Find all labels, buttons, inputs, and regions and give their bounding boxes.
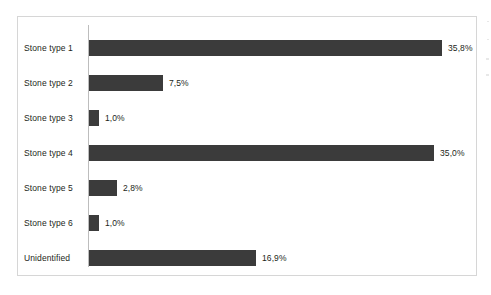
bar-value-label: 1,0% <box>105 110 125 126</box>
bar-row: Unidentified 16,9% <box>18 241 476 275</box>
bar-track: 35,8% <box>89 31 476 65</box>
bar-track: 7,5% <box>89 66 476 100</box>
bar-row: Stone type 2 7,5% <box>18 66 476 100</box>
bar-track: 2,8% <box>89 171 476 205</box>
bar-track: 16,9% <box>89 241 476 275</box>
scan-artifact <box>486 74 489 76</box>
bar <box>89 145 434 161</box>
bar-value-label: 35,8% <box>448 40 473 56</box>
bar-value-label: 16,9% <box>262 250 287 266</box>
category-label: Unidentified <box>18 241 80 275</box>
scan-artifact <box>487 21 489 22</box>
bar-track: 1,0% <box>89 206 476 240</box>
bar-value-label: 2,8% <box>123 180 143 196</box>
bar <box>89 40 442 56</box>
scan-artifact <box>487 39 489 40</box>
category-label: Stone type 1 <box>18 31 80 65</box>
bar <box>89 110 99 126</box>
bar-track: 1,0% <box>89 101 476 135</box>
category-label: Stone type 2 <box>18 66 80 100</box>
bar-value-label: 7,5% <box>169 75 189 91</box>
bar <box>89 180 117 196</box>
category-label: Stone type 6 <box>18 206 80 240</box>
category-label: Stone type 4 <box>18 136 80 170</box>
bar <box>89 250 256 266</box>
bar-track: 35,0% <box>89 136 476 170</box>
bar-chart: Stone type 1 35,8% Stone type 2 7,5% Sto… <box>17 16 477 276</box>
bar-row: Stone type 5 2,8% <box>18 171 476 205</box>
bar-value-label: 1,0% <box>105 215 125 231</box>
scan-artifact <box>486 58 489 60</box>
bar-value-label: 35,0% <box>440 145 465 161</box>
bar-row: Stone type 1 35,8% <box>18 31 476 65</box>
category-label: Stone type 3 <box>18 101 80 135</box>
category-label: Stone type 5 <box>18 171 80 205</box>
bar-row: Stone type 6 1,0% <box>18 206 476 240</box>
bar-row: Stone type 4 35,0% <box>18 136 476 170</box>
bar <box>89 75 163 91</box>
bar-row: Stone type 3 1,0% <box>18 101 476 135</box>
bar <box>89 215 99 231</box>
plot-area: Stone type 1 35,8% Stone type 2 7,5% Sto… <box>18 17 476 275</box>
